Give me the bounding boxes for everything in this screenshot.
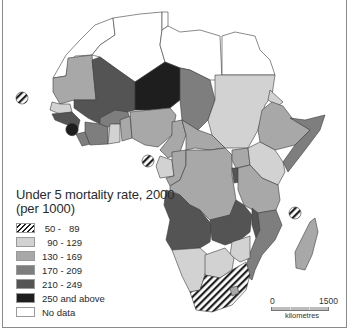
region-mauritius-seychelles xyxy=(289,207,301,219)
legend-item-50-89: 50 - 89 xyxy=(16,221,174,235)
scale-max-label: 1500 xyxy=(319,296,338,306)
region-gabon xyxy=(156,156,174,178)
legend-title-line2: (per 1000) xyxy=(16,202,174,216)
swatch-210-249-icon xyxy=(16,279,35,289)
swatch-250-above-icon xyxy=(16,293,35,303)
legend-item-170-209: 170 - 209 xyxy=(16,263,174,277)
map-legend: Under 5 mortality rate, 2000 (per 1000) … xyxy=(16,188,174,319)
region-mauritania xyxy=(53,55,96,104)
region-cape-verde xyxy=(16,92,28,104)
scale-bar: 0 1500 kilometres xyxy=(268,296,338,320)
swatch-130-169-icon xyxy=(16,251,35,261)
swatch-170-209-icon xyxy=(16,265,35,275)
swatch-no-data-icon xyxy=(16,307,35,317)
legend-item-250-above: 250 and above xyxy=(16,291,174,305)
legend-item-210-249: 210 - 249 xyxy=(16,277,174,291)
legend-item-90-129: 90 - 129 xyxy=(16,235,174,249)
region-sao-tome xyxy=(142,155,154,167)
legend-title-line1: Under 5 mortality rate, 2000 xyxy=(16,188,174,202)
swatch-90-129-icon xyxy=(16,237,35,247)
hatched-swatch-icon xyxy=(16,223,35,233)
region-uganda xyxy=(232,148,250,168)
legend-item-130-169: 130 - 169 xyxy=(16,249,174,263)
region-egypt xyxy=(222,32,275,75)
scale-unit-label: kilometres xyxy=(266,311,338,320)
region-madagascar xyxy=(295,218,318,270)
legend-item-no-data: No data xyxy=(16,305,174,319)
region-ghana xyxy=(108,124,120,144)
scale-min-label: 0 xyxy=(270,296,275,306)
region-togo-benin xyxy=(120,116,132,141)
